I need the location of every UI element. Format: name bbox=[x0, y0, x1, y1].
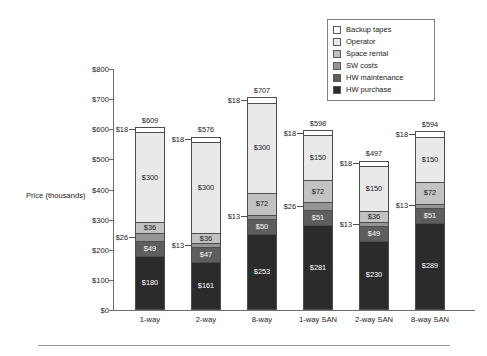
callout-leader-line bbox=[185, 139, 191, 140]
bar-total-label: $598 bbox=[295, 119, 341, 128]
bar-2-way[interactable]: $300$36$47$161 bbox=[191, 137, 221, 310]
segment-value-label: $150 bbox=[310, 154, 326, 162]
segment-value-callout: $13 bbox=[326, 219, 352, 228]
segment-value-callout: $18 bbox=[102, 125, 128, 134]
legend-item[interactable]: Operator bbox=[333, 36, 429, 48]
y-axis-tick bbox=[109, 159, 114, 160]
y-axis-tick bbox=[109, 99, 114, 100]
x-axis-tick-label: 1-way bbox=[120, 315, 180, 324]
bar-segment[interactable]: $36 bbox=[135, 222, 165, 233]
segment-value-label: $36 bbox=[368, 213, 380, 221]
segment-value-label: $72 bbox=[312, 188, 324, 196]
segment-value-callout: $13 bbox=[382, 201, 408, 210]
bar-segment[interactable]: $36 bbox=[359, 211, 389, 222]
x-axis-spine bbox=[113, 310, 475, 311]
y-axis-tick bbox=[109, 69, 114, 70]
bar-segment[interactable]: $50 bbox=[247, 219, 277, 234]
y-axis-tick-label: $700 bbox=[92, 95, 109, 104]
y-axis-tick-label: $300 bbox=[92, 215, 109, 224]
bar-total-label: $707 bbox=[239, 86, 285, 95]
bar-total-label: $497 bbox=[351, 149, 397, 158]
segment-value-label: $300 bbox=[142, 174, 158, 182]
stacked-bar-chart: Backup tapesOperatorSpace rentalSW costs… bbox=[0, 0, 487, 356]
callout-leader-line bbox=[129, 237, 135, 238]
bar-segment[interactable]: $253 bbox=[247, 234, 277, 310]
segment-value-callout: $18 bbox=[326, 158, 352, 167]
bar-segment[interactable]: $180 bbox=[135, 256, 165, 310]
bar-segment[interactable]: $230 bbox=[359, 241, 389, 310]
bar-segment[interactable]: $47 bbox=[191, 247, 221, 261]
x-axis-tick-label: 1-way SAN bbox=[288, 315, 348, 324]
x-axis-tick-label: 2-way bbox=[176, 315, 236, 324]
callout-leader-line bbox=[129, 129, 135, 130]
segment-value-label: $150 bbox=[422, 156, 438, 164]
segment-value-label: $300 bbox=[198, 184, 214, 192]
bar-segment[interactable]: $300 bbox=[135, 132, 165, 222]
bar-segment[interactable]: $72 bbox=[415, 182, 445, 204]
y-axis-tick-label: $800 bbox=[92, 65, 109, 74]
bar-segment[interactable]: $161 bbox=[191, 262, 221, 311]
segment-value-callout: $18 bbox=[158, 135, 184, 144]
bar-segment[interactable]: $300 bbox=[247, 103, 277, 193]
bar-1-way[interactable]: $300$36$49$180 bbox=[135, 127, 165, 310]
callout-leader-line bbox=[353, 224, 359, 225]
bar-segment[interactable]: $51 bbox=[415, 208, 445, 223]
segment-value-callout: $18 bbox=[214, 95, 240, 104]
bar-segment[interactable]: $72 bbox=[303, 180, 333, 202]
segment-value-label: $49 bbox=[144, 245, 156, 253]
bar-segment[interactable]: $281 bbox=[303, 225, 333, 310]
legend-item[interactable]: Space rental bbox=[333, 48, 429, 60]
legend-item-label: Space rental bbox=[346, 49, 388, 58]
segment-value-label: $51 bbox=[424, 212, 436, 220]
bar-segment[interactable]: $49 bbox=[359, 226, 389, 241]
segment-value-callout: $13 bbox=[214, 212, 240, 221]
bar-segment[interactable]: $289 bbox=[415, 223, 445, 310]
segment-value-callout: $18 bbox=[382, 129, 408, 138]
callout-leader-line bbox=[353, 163, 359, 164]
footer-rule bbox=[38, 345, 450, 346]
segment-value-label: $47 bbox=[200, 251, 212, 259]
legend-swatch-icon bbox=[333, 38, 341, 46]
segment-value-label: $36 bbox=[144, 224, 156, 232]
segment-value-label: $281 bbox=[310, 264, 326, 272]
y-axis-tick-label: $500 bbox=[92, 155, 109, 164]
callout-leader-line bbox=[297, 206, 303, 207]
plot-area: $300$36$49$180$300$36$47$161$300$72$50$2… bbox=[113, 69, 475, 310]
segment-value-label: $50 bbox=[256, 223, 268, 231]
segment-value-label: $300 bbox=[254, 144, 270, 152]
y-axis-tick-label: $400 bbox=[92, 185, 109, 194]
callout-leader-line bbox=[241, 100, 247, 101]
y-axis-tick bbox=[109, 250, 114, 251]
segment-value-label: $49 bbox=[368, 230, 380, 238]
legend-swatch-icon bbox=[333, 50, 341, 58]
callout-leader-line bbox=[409, 134, 415, 135]
bar-segment[interactable]: $150 bbox=[415, 137, 445, 182]
bar-segment[interactable]: $36 bbox=[191, 233, 221, 244]
legend-item-label: Backup tapes bbox=[346, 25, 391, 34]
y-axis-tick bbox=[109, 190, 114, 191]
segment-value-callout: $26 bbox=[270, 202, 296, 211]
legend-swatch-icon bbox=[333, 26, 341, 34]
segment-value-label: $161 bbox=[198, 282, 214, 290]
segment-value-callout: $18 bbox=[270, 128, 296, 137]
segment-value-label: $51 bbox=[312, 214, 324, 222]
segment-value-callout: $26 bbox=[102, 233, 128, 242]
bar-2-way-san[interactable]: $150$36$49$230 bbox=[359, 161, 389, 310]
legend-item[interactable]: Backup tapes bbox=[333, 24, 429, 36]
y-axis-tick bbox=[109, 310, 114, 311]
segment-value-label: $36 bbox=[200, 235, 212, 243]
segment-value-label: $289 bbox=[422, 262, 438, 270]
segment-value-label: $180 bbox=[142, 279, 158, 287]
x-axis-tick-label: 8-way bbox=[232, 315, 292, 324]
segment-value-label: $253 bbox=[254, 268, 270, 276]
bar-total-label: $576 bbox=[183, 125, 229, 134]
y-axis-tick-label: $200 bbox=[92, 245, 109, 254]
bar-segment[interactable] bbox=[303, 202, 333, 210]
callout-leader-line bbox=[241, 216, 247, 217]
y-axis-tick-label: $100 bbox=[92, 275, 109, 284]
segment-value-label: $150 bbox=[366, 185, 382, 193]
segment-value-label: $72 bbox=[424, 189, 436, 197]
segment-value-label: $72 bbox=[256, 200, 268, 208]
bar-8-way-san[interactable]: $150$72$51$289 bbox=[415, 131, 445, 310]
legend-item-label: Operator bbox=[346, 37, 376, 46]
